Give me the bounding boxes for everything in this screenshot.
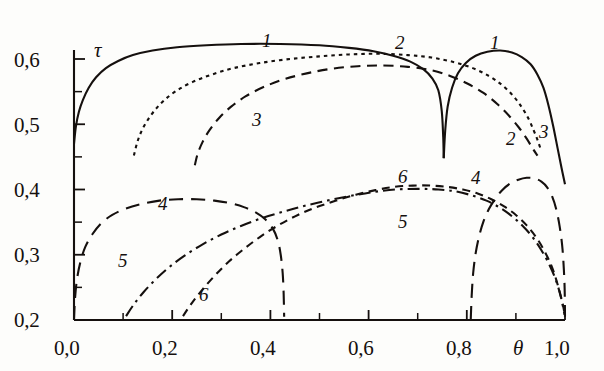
curve-5 bbox=[126, 189, 564, 316]
curve-label-4-8: 4 bbox=[471, 167, 481, 189]
curve-label-6-7: 6 bbox=[398, 166, 408, 188]
curve-1 bbox=[74, 44, 444, 158]
figure-container: 0,6 0,5 0,4 0,3 0,2 0,0 0,2 0,4 0,6 0,8 … bbox=[0, 0, 604, 371]
x-tick-label-02: 0,2 bbox=[152, 336, 178, 361]
x-tick-label-04: 0,4 bbox=[250, 336, 276, 361]
curve-label-3-3: 3 bbox=[252, 109, 262, 131]
y-axis-title: τ bbox=[94, 38, 102, 63]
curve-label-3-5: 3 bbox=[539, 121, 549, 143]
curve-label-5-9: 5 bbox=[398, 211, 408, 233]
curve-1 bbox=[444, 51, 565, 185]
curve-label-2-4: 2 bbox=[506, 128, 516, 150]
curve-label-2-1: 2 bbox=[395, 32, 405, 54]
curve-label-5-10: 5 bbox=[118, 250, 128, 272]
curves-group bbox=[74, 44, 565, 320]
curve-label-6-11: 6 bbox=[199, 284, 209, 306]
x-tick-label-06: 0,6 bbox=[348, 336, 374, 361]
y-tick-label-04: 0,4 bbox=[14, 178, 40, 203]
y-tick-label-06: 0,6 bbox=[14, 48, 40, 73]
chart-plot-area bbox=[0, 0, 604, 371]
axes-group bbox=[74, 50, 565, 320]
x-tick-label-10: 1,0 bbox=[544, 336, 570, 361]
y-tick-label-03: 0,3 bbox=[14, 243, 40, 268]
x-axis-title: θ bbox=[513, 336, 523, 361]
x-tick-label-00: 0,0 bbox=[54, 336, 80, 361]
curve-label-1-2: 1 bbox=[490, 32, 500, 54]
y-tick-label-05: 0,5 bbox=[14, 113, 40, 138]
curve-3 bbox=[195, 66, 538, 166]
x-tick-label-08: 0,8 bbox=[446, 336, 472, 361]
curve-label-1-0: 1 bbox=[262, 30, 272, 52]
y-tick-label-02: 0,2 bbox=[14, 308, 40, 333]
curve-label-4-6: 4 bbox=[158, 193, 168, 215]
